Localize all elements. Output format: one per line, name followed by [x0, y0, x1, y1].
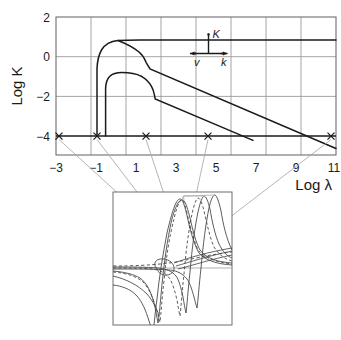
cross-up-node	[207, 33, 209, 35]
cross-right-node	[221, 52, 223, 54]
x-tick-label: 7	[253, 161, 260, 175]
legend-label-K: K	[213, 28, 221, 40]
legend-label-v: v	[194, 56, 201, 68]
x-tick-label: 5	[213, 161, 220, 175]
curve-lower-rolloff	[142, 76, 254, 140]
curve-lower-plateau	[106, 73, 142, 137]
y-tick-label: −2	[36, 90, 50, 104]
inset-plot	[113, 192, 232, 333]
figure-svg: K v k 2 0 −2 −4 −3 −1 1 3 5 7 9 11 Log K…	[0, 0, 341, 340]
x-tick-labels: −3 −1 1 3 5 7 9 11	[49, 161, 340, 175]
legend-label-k: k	[221, 56, 227, 68]
vertical-gridlines	[91, 17, 301, 155]
y-axis-title: Log K	[8, 66, 25, 105]
main-plot: K v k 2 0 −2 −4 −3 −1 1 3 5 7 9 11 Log K…	[8, 11, 341, 194]
y-tick-labels: 2 0 −2 −4	[36, 11, 50, 144]
x-tick-label: 11	[328, 161, 341, 175]
x-tick-label: −3	[49, 161, 63, 175]
cross-left-node	[194, 52, 196, 54]
x-axis-title: Log λ	[295, 176, 332, 193]
figure-root: K v k 2 0 −2 −4 −3 −1 1 3 5 7 9 11 Log K…	[0, 0, 341, 340]
y-tick-label: 0	[43, 50, 50, 64]
x-tick-label: 1	[133, 161, 140, 175]
y-tick-label: −4	[36, 130, 50, 144]
curve-upper-plateau	[97, 40, 336, 136]
x-tick-label: 3	[173, 161, 180, 175]
y-tick-label: 2	[43, 11, 50, 25]
